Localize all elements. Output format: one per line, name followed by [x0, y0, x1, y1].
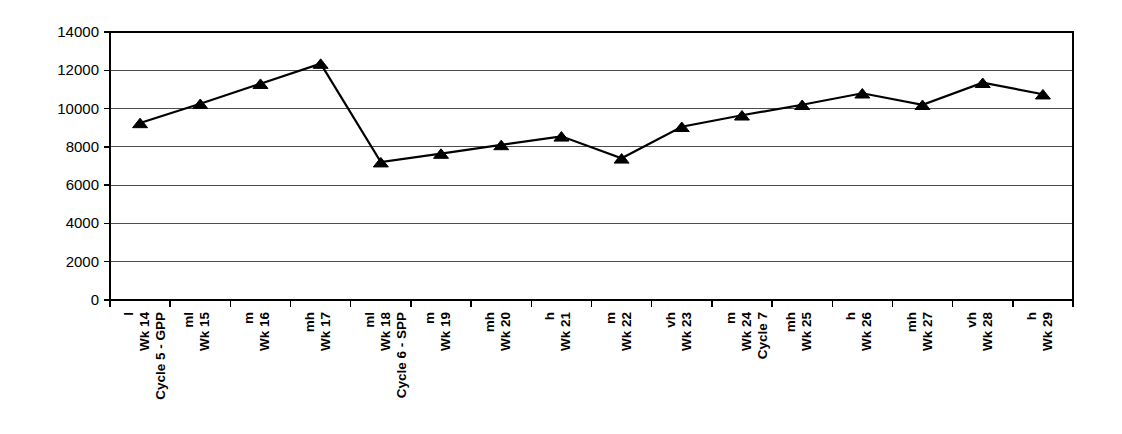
y-axis-tick-label: 6000	[66, 176, 99, 193]
y-axis-tick-label: 2000	[66, 253, 99, 270]
series-line	[140, 64, 1043, 163]
chart-canvas: 02000400060008000100001200014000 lWk 14C…	[0, 0, 1122, 434]
y-axis-tick-label: 4000	[66, 214, 99, 231]
data-point-marker	[193, 99, 208, 109]
x-axis-tick-label: h	[843, 312, 858, 320]
x-axis-tick-label: Cycle 7	[755, 312, 770, 359]
x-axis-tick-label: Wk 17	[318, 312, 333, 351]
x-axis-tick-label: m	[603, 312, 618, 324]
x-axis-tick-label: Wk 16	[257, 312, 272, 352]
x-axis-tick-label: m	[723, 312, 738, 324]
x-axis-tick-label: l	[121, 312, 136, 316]
data-point-marker	[313, 59, 328, 68]
x-axis-tick-label: Wk 29	[1040, 312, 1055, 351]
x-axis-tick-label: m	[241, 312, 256, 324]
plot-frame	[110, 32, 1073, 300]
x-axis-tick-label: Wk 18	[378, 312, 393, 352]
series-markers-group	[133, 59, 1051, 167]
y-axis-tick-label: 0	[91, 291, 99, 308]
x-axis-tick-label: h	[1024, 312, 1039, 320]
y-axis-tick-label: 10000	[57, 100, 99, 117]
x-axis-tick-label: Cycle 6 - SPP	[394, 312, 409, 398]
plot-area-border	[110, 32, 1073, 300]
x-axis-tick-label: ml	[181, 312, 196, 328]
x-axis-tick-label: Wk 20	[498, 312, 513, 351]
data-point-marker	[133, 118, 148, 128]
x-axis-tick-label: Wk 26	[859, 312, 874, 352]
y-axis-tick-label: 14000	[57, 23, 99, 40]
x-axis-tick-label: Wk 27	[920, 312, 935, 351]
x-tick-marks	[110, 300, 1073, 307]
data-point-marker	[253, 79, 268, 89]
x-axis-tick-label: vh	[663, 312, 678, 328]
x-axis-tick-label: Wk 28	[980, 312, 995, 352]
x-axis-tick-label: mh	[904, 312, 919, 332]
x-axis-tick-label: mh	[783, 312, 798, 332]
x-axis-tick-label: mh	[482, 312, 497, 332]
series-line-group	[140, 64, 1043, 163]
x-axis-tick-label: mh	[302, 312, 317, 332]
x-axis-tick-label: Wk 15	[197, 312, 212, 352]
y-axis-tick-labels: 02000400060008000100001200014000	[57, 23, 99, 308]
x-axis-tick-label: Wk 14	[137, 312, 152, 352]
x-axis-tick-label: ml	[362, 312, 377, 328]
y-axis-tick-label: 12000	[57, 61, 99, 78]
x-axis-tick-label: Wk 19	[438, 312, 453, 351]
line-chart: 02000400060008000100001200014000 lWk 14C…	[0, 0, 1122, 434]
x-axis-tick-label: h	[542, 312, 557, 320]
x-axis-tick-label: Wk 23	[679, 312, 694, 352]
x-axis-tick-label: Wk 24	[739, 312, 754, 352]
x-axis-tick-labels: lWk 14Cycle 5 - GPPmlWk 15mWk 16mhWk 17m…	[121, 312, 1055, 400]
x-axis-tick-label: Wk 22	[619, 312, 634, 351]
x-axis-tick-label: vh	[964, 312, 979, 328]
x-axis-tick-label: Wk 21	[558, 312, 573, 352]
x-axis-tick-label: Wk 25	[799, 312, 814, 352]
x-axis-tick-label: Cycle 5 - GPP	[153, 312, 168, 400]
x-axis-tick-label: m	[422, 312, 437, 324]
y-axis-tick-label: 8000	[66, 138, 99, 155]
